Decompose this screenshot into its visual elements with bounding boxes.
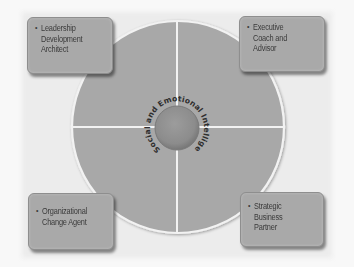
inner-hub-circle (155, 106, 199, 150)
role-box-strategic-business-partner: • Strategic Business Partner (240, 192, 324, 247)
role-label: Organizational Change Agent (42, 206, 87, 227)
role-label: Strategic Business Partner (254, 201, 283, 233)
diagram-canvas: Social and Emotional Intelligence • Lead… (0, 0, 354, 267)
role-label: Leadership Development Architect (41, 23, 82, 55)
role-box-executive-coach-and-advisor: • Executive Coach and Advisor (239, 16, 325, 72)
role-box-leadership-development-architect: • Leadership Development Architect (27, 17, 113, 74)
role-label: Executive Coach and Advisor (253, 22, 287, 54)
role-box-organizational-change-agent: • Organizational Change Agent (28, 193, 114, 250)
